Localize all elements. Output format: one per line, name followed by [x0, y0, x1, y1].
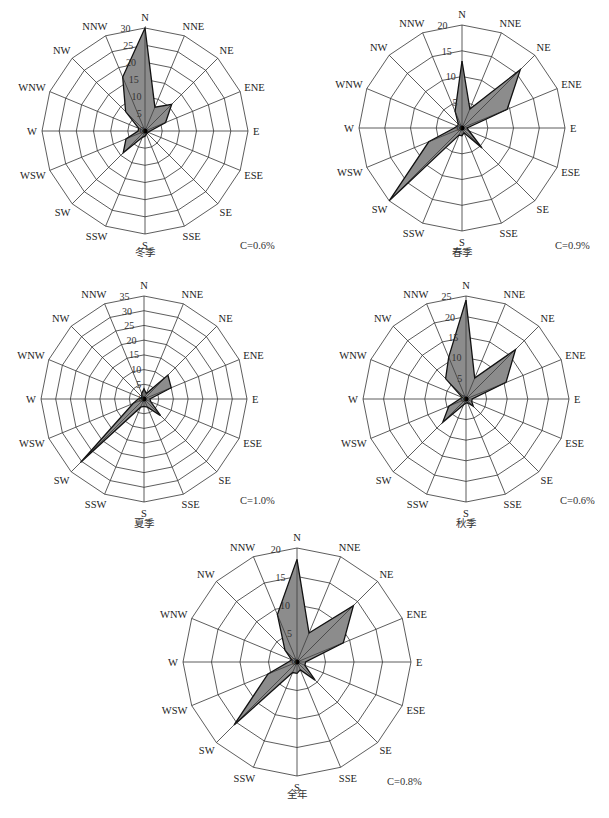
tick-label: 15	[448, 332, 458, 343]
direction-label: NNW	[230, 542, 255, 553]
tick-label: 15	[442, 46, 452, 57]
calm-frequency-label: C=1.0%	[240, 495, 275, 506]
annual-wind-rose: NNNENEENEEESESESSESSSWSWWSWWWNWNWNNW0510…	[160, 532, 427, 800]
tick-label: 15	[129, 74, 139, 85]
direction-label: SW	[54, 475, 70, 486]
direction-label: ESE	[244, 170, 263, 181]
calm-frequency-label: C=0.6%	[240, 240, 275, 251]
tick-label: 20	[126, 57, 136, 68]
tick-label: 10	[446, 71, 456, 82]
frequency-polygon	[81, 375, 172, 462]
direction-label: NW	[52, 313, 70, 324]
direction-label: W	[26, 394, 36, 405]
direction-label: ESE	[561, 167, 580, 178]
tick-label: 5	[136, 379, 141, 390]
calm-frequency-label: C=0.9%	[555, 240, 590, 251]
direction-label: SSW	[86, 231, 108, 242]
tick-label: 15	[275, 572, 285, 583]
direction-label: NW	[53, 45, 71, 56]
direction-label: ENE	[243, 350, 263, 361]
calm-frequency-label: C=0.6%	[560, 495, 595, 506]
tick-label: 35	[120, 291, 130, 302]
wind-rose-figure: NNNENEENEEESESESSESSSWSWWSWWWNWNWNNW0510…	[0, 0, 609, 818]
tick-label: 5	[457, 373, 462, 384]
direction-label: ENE	[561, 79, 581, 90]
direction-label: W	[168, 657, 178, 668]
spoke-se	[466, 399, 539, 472]
direction-label: SE	[220, 207, 232, 218]
direction-label: SW	[372, 204, 388, 215]
direction-label: NNE	[339, 542, 361, 553]
tick-label: 20	[127, 335, 137, 346]
direction-label: SE	[541, 475, 553, 486]
direction-label: W	[344, 123, 354, 134]
tick-label: 0	[139, 393, 144, 404]
direction-label: NNE	[504, 289, 526, 300]
direction-label: E	[252, 394, 258, 405]
direction-label: WSW	[162, 705, 188, 716]
tick-label: 0	[140, 125, 145, 136]
tick-label: 0	[461, 393, 466, 404]
tick-label: 25	[442, 291, 452, 302]
direction-label: SW	[199, 745, 215, 756]
tick-label: 20	[438, 20, 448, 31]
direction-label: NNE	[182, 289, 204, 300]
direction-label: NNW	[403, 289, 428, 300]
calm-frequency-label: C=0.8%	[387, 776, 422, 787]
direction-label: E	[253, 126, 259, 137]
data-point-sw	[81, 399, 145, 463]
tick-label: 25	[124, 320, 134, 331]
direction-label: SE	[219, 475, 231, 486]
autumn-wind-rose: NNNENEENEEESESESSESSSWSWWSWWWNWNWNNW0510…	[339, 280, 595, 529]
winter-wind-rose: NNNENEENEEESESESSESSSWSWWSWWWNWNWNNW0510…	[18, 12, 275, 258]
direction-label: SSE	[504, 499, 522, 510]
direction-label: WNW	[160, 609, 187, 620]
tick-label: 5	[137, 108, 142, 119]
tick-label: 5	[287, 628, 292, 639]
direction-label: NE	[537, 42, 551, 53]
direction-label: N	[141, 12, 149, 23]
direction-label: WSW	[19, 438, 45, 449]
direction-label: NNW	[82, 21, 107, 32]
direction-label: ESE	[243, 438, 262, 449]
direction-label: SSE	[500, 228, 518, 239]
direction-label: NE	[541, 313, 555, 324]
direction-label: WNW	[339, 350, 366, 361]
spoke-se	[145, 131, 218, 204]
chart-caption: 全年	[287, 788, 307, 800]
direction-label: E	[574, 394, 580, 405]
direction-label: ENE	[244, 82, 264, 93]
direction-label: SSE	[183, 231, 201, 242]
direction-label: SSW	[85, 499, 107, 510]
tick-label: 0	[457, 122, 462, 133]
direction-label: W	[348, 394, 358, 405]
direction-label: E	[570, 123, 576, 134]
direction-label: SSE	[339, 773, 357, 784]
tick-label: 20	[445, 312, 455, 323]
direction-label: NE	[220, 45, 234, 56]
spoke-nw	[389, 55, 462, 128]
direction-label: W	[27, 126, 37, 137]
spring-wind-rose: NNNENEENEEESESESSESSSWSWWSWWWNWNWNNW0510…	[335, 9, 590, 258]
tick-label: 10	[131, 364, 141, 375]
direction-label: ENE	[407, 609, 427, 620]
data-point-se	[462, 128, 482, 148]
direction-label: WNW	[18, 82, 45, 93]
tick-label: 10	[280, 600, 290, 611]
direction-label: SSW	[234, 773, 256, 784]
data-point-sw	[234, 662, 297, 725]
tick-label: 5	[452, 97, 457, 108]
direction-label: SE	[379, 745, 391, 756]
direction-label: ESE	[565, 438, 584, 449]
direction-label: SW	[376, 475, 392, 486]
tick-label: 0	[292, 656, 297, 667]
direction-label: NNW	[81, 289, 106, 300]
direction-label: SSE	[182, 499, 200, 510]
direction-label: SW	[55, 207, 71, 218]
direction-label: WSW	[341, 438, 367, 449]
direction-label: NNE	[183, 21, 205, 32]
direction-label: WNW	[335, 79, 362, 90]
data-point-sw	[389, 128, 462, 201]
tick-label: 10	[451, 352, 461, 363]
direction-label: NNE	[500, 18, 522, 29]
